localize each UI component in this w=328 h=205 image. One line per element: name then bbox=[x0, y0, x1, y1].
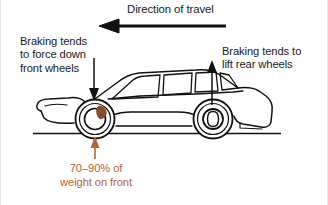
front-down-arrow bbox=[89, 58, 99, 101]
rear-wheel bbox=[194, 100, 233, 139]
braking-weight-transfer-figure: Direction of travel Braking tends to for… bbox=[0, 0, 328, 205]
front-wheels-note-label: Braking tends to force down front wheels bbox=[20, 35, 87, 75]
direction-of-travel-arrow bbox=[99, 19, 226, 33]
weight-on-front-label: 70–90% of weight on front bbox=[36, 161, 156, 189]
car-body-outline bbox=[37, 70, 273, 129]
weight-up-arrow bbox=[91, 136, 100, 159]
front-wheel bbox=[76, 100, 115, 139]
rear-up-arrow bbox=[207, 60, 217, 105]
direction-of-travel-label: Direction of travel bbox=[127, 3, 214, 16]
rear-wheels-note-label: Braking tends to lift rear wheels bbox=[222, 45, 301, 72]
front-brake-caliper bbox=[97, 106, 107, 119]
